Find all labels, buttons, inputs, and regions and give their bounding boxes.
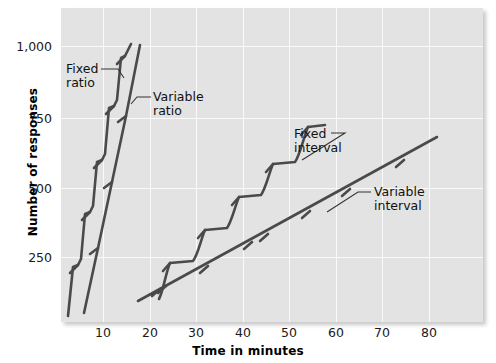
xtick-70: 70 bbox=[362, 325, 402, 340]
gridline-y-1000 bbox=[61, 46, 483, 47]
gridline-y-250 bbox=[61, 257, 483, 258]
ytick-1000: 1,000 bbox=[0, 39, 52, 54]
gridline-x-80 bbox=[429, 8, 430, 322]
variable-interval-label: Variable interval bbox=[374, 185, 425, 213]
xtick-20: 20 bbox=[130, 325, 170, 340]
xtick-60: 60 bbox=[316, 325, 356, 340]
fixed-ratio-label: Fixed ratio bbox=[66, 62, 98, 90]
y-axis-title: Number of responses bbox=[26, 62, 40, 262]
xtick-30: 30 bbox=[176, 325, 216, 340]
gridline-x-50 bbox=[289, 8, 290, 322]
plot-area bbox=[61, 8, 483, 322]
xtick-50: 50 bbox=[269, 325, 309, 340]
x-axis-title: Time in minutes bbox=[0, 344, 496, 358]
gridline-x-40 bbox=[243, 8, 244, 322]
xtick-80: 80 bbox=[409, 325, 449, 340]
gridline-x-60 bbox=[336, 8, 337, 322]
gridline-x-10 bbox=[103, 8, 104, 322]
response-schedules-chart: 1,000 750 500 250 10 20 30 40 50 60 70 8… bbox=[0, 0, 496, 363]
gridline-x-20 bbox=[150, 8, 151, 322]
gridline-x-70 bbox=[382, 8, 383, 322]
xtick-40: 40 bbox=[223, 325, 263, 340]
xtick-10: 10 bbox=[83, 325, 123, 340]
gridline-y-750 bbox=[61, 118, 483, 119]
gridline-x-30 bbox=[196, 8, 197, 322]
variable-ratio-label: Variable ratio bbox=[153, 90, 204, 118]
fixed-interval-label: Fixed interval bbox=[294, 127, 342, 155]
